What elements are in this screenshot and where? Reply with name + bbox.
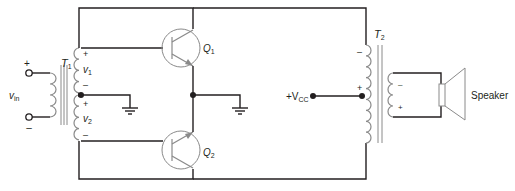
input-source: + – vin [9,58,56,133]
t1-core-icon [61,65,67,125]
v2-minus: – [83,130,88,140]
t1-label: T1 [61,57,72,70]
t2-center-tap-junction [359,93,365,99]
input-terminal-top [26,70,32,76]
t2-secondary-plus: + [398,103,403,112]
t1-primary-coil-icon [50,73,56,117]
t2-label: T2 [374,28,385,41]
input-plus: + [24,58,30,69]
input-terminal-bottom [26,114,32,120]
ground-icon-2 [232,108,248,114]
q1-label: Q1 [203,43,215,55]
t2-core-icon [378,45,382,143]
push-pull-amplifier-schematic: + – vin T1 + v1 – + v2 – Q1 [0,0,515,191]
ground-icon-1 [122,108,138,114]
t2-primary-coil-icon [366,45,371,143]
t2-primary-plus: + [357,83,362,93]
v1-plus: + [83,49,88,59]
t2-secondary-minus: – [398,80,403,89]
v1-label: v1 [83,64,92,76]
vcc-label: +VCC [286,91,309,103]
input-minus: – [26,122,32,133]
speaker-label: Speaker [471,90,509,101]
t2-secondary-coil-icon [388,73,393,117]
transistor-q2-icon [162,131,200,169]
v1-minus: – [83,80,88,90]
v2-plus: + [83,99,88,109]
t2-primary-minus: – [357,47,362,57]
q2-label: Q2 [203,147,215,159]
input-label: vin [9,90,20,102]
speaker-icon [439,68,465,120]
transistor-q1-icon [162,29,200,67]
v2-label: v2 [83,113,92,125]
